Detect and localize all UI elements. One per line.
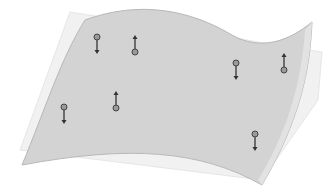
diagram-canvas — [0, 0, 333, 195]
surface-point — [94, 34, 100, 40]
surface-point — [233, 60, 239, 66]
surface-point — [132, 49, 138, 55]
surface-point — [113, 105, 119, 111]
surface-point — [252, 131, 258, 137]
surface-diagram — [0, 0, 333, 195]
surface-point — [61, 104, 67, 110]
surface-point — [281, 67, 287, 73]
